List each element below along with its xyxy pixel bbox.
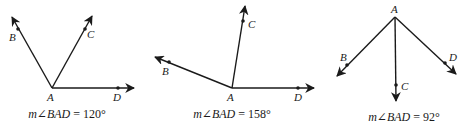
point-label-d: D [293, 91, 302, 103]
angle-figure-120: BCDAm∠BAD = 120° [9, 16, 134, 121]
measure-prefix: m [368, 110, 377, 124]
point-b-dot [167, 60, 171, 64]
angle-measure-caption: m∠BAD = 158° [193, 107, 271, 121]
measure-prefix: m [193, 107, 202, 121]
ray-ac [395, 17, 396, 101]
angle-symbol: ∠ [377, 110, 387, 124]
angle-value: = 92° [410, 110, 440, 124]
angle-name: BAD [47, 107, 71, 121]
ray-ad [395, 17, 456, 74]
point-c-dot [394, 83, 398, 87]
angle-figure-92: BCDAm∠BAD = 92° [337, 3, 457, 124]
measure-prefix: m [28, 107, 37, 121]
angle-name: BAD [387, 110, 411, 124]
point-label-c: C [401, 80, 409, 92]
angle-figure-158: BCDAm∠BAD = 158° [155, 6, 314, 121]
vertex-label-a: A [390, 3, 398, 15]
angle-symbol: ∠ [202, 107, 212, 121]
point-label-c: C [248, 18, 256, 30]
ray-ab [337, 17, 395, 76]
point-label-c: C [87, 28, 95, 40]
point-c-dot [241, 19, 245, 23]
point-d-dot [296, 86, 300, 90]
angle-name: BAD [212, 107, 236, 121]
vertex-label-a: A [226, 91, 234, 103]
point-label-b: B [9, 31, 16, 43]
point-d-dot [443, 61, 447, 65]
point-d-dot [116, 86, 120, 90]
angle-measure-caption: m∠BAD = 92° [368, 110, 440, 124]
angle-measure-caption: m∠BAD = 120° [28, 107, 106, 121]
point-label-d: D [448, 51, 457, 63]
point-label-b: B [340, 51, 347, 63]
angle-value: = 158° [235, 107, 271, 121]
ray-ac [52, 16, 92, 88]
vertex-label-a: A [46, 91, 54, 103]
angle-value: = 120° [70, 107, 106, 121]
point-b-dot [16, 27, 20, 31]
point-label-d: D [112, 91, 121, 103]
point-label-b: B [162, 65, 169, 77]
point-b-dot [345, 63, 349, 67]
angle-diagrams: BCDAm∠BAD = 120° BCDAm∠BAD = 158° BCDAm∠… [0, 0, 466, 134]
angle-symbol: ∠ [37, 107, 47, 121]
ray-ac [232, 6, 245, 88]
